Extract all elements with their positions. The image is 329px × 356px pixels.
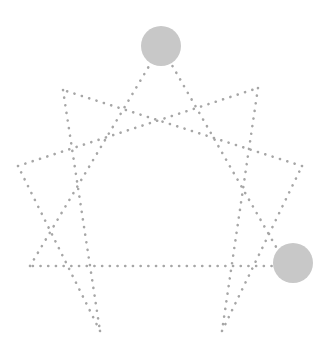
dotted-line-9-3 <box>161 46 287 266</box>
dotted-line-7-1 <box>18 88 258 166</box>
enneagram-lines <box>18 46 302 331</box>
dotted-line-1-4 <box>222 88 258 331</box>
dotted-line-6-9 <box>30 46 161 266</box>
highlight-point-9 <box>141 26 181 66</box>
dotted-line-2-8 <box>63 90 302 166</box>
highlighted-points <box>141 26 313 283</box>
highlight-point-3 <box>273 243 313 283</box>
dotted-line-5-7 <box>18 166 100 331</box>
dotted-line-8-5 <box>63 90 100 331</box>
enneagram-diagram <box>0 0 329 356</box>
